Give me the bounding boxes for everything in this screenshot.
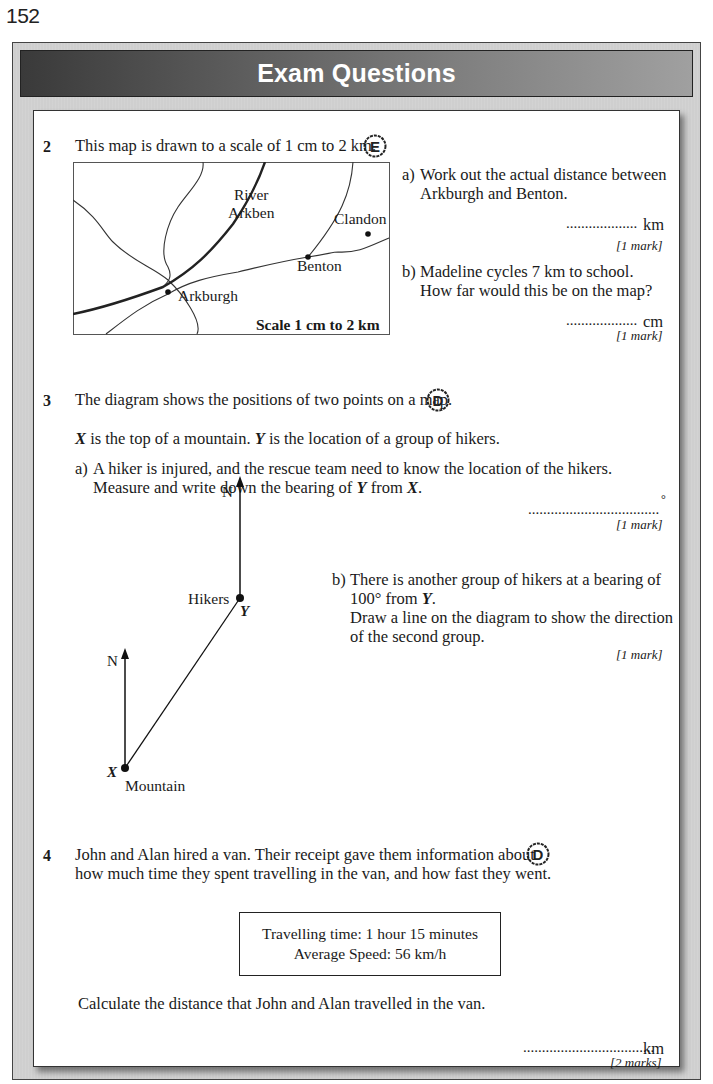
map-scale-label: Scale 1 cm to 2 km [256, 315, 380, 335]
north-arrow-head [236, 476, 244, 487]
answer-line[interactable]: ................................... [528, 501, 659, 518]
question-number: 4 [43, 847, 51, 865]
svg-text:D: D [533, 846, 544, 863]
hikers-label: Hikers [188, 589, 229, 609]
scale-map [73, 162, 390, 335]
marks-label: [1 mark] [616, 517, 663, 533]
marks-label: [1 mark] [616, 647, 663, 663]
answer-unit: km [643, 215, 664, 235]
north-label: N [222, 482, 233, 502]
question-number: 2 [43, 138, 51, 156]
answer-line[interactable]: ................... [566, 312, 637, 329]
page-number: 152 [6, 4, 40, 28]
part-a-text: Work out the actual distance between [420, 165, 667, 185]
part-b-text: of the second group. [350, 627, 485, 647]
part-label: a) [402, 165, 415, 185]
question-text: John and Alan hired a van. Their receipt… [75, 845, 535, 865]
point-x-label: X [107, 762, 117, 782]
question-stem: The diagram shows the positions of two p… [75, 390, 452, 410]
point-y-label: Y [240, 601, 249, 621]
svg-text:D: D [433, 392, 444, 409]
question-text: Calculate the distance that John and Ala… [78, 994, 485, 1014]
title-bar: Exam Questions [20, 50, 693, 97]
question-number: 3 [43, 392, 51, 410]
receipt-box: Travelling time: 1 hour 15 minutes Avera… [239, 912, 501, 976]
grade-d-icon: D [526, 842, 550, 866]
map-label-arkburgh: Arkburgh [178, 286, 238, 306]
arkburgh-point [165, 289, 171, 295]
mountain-label: Mountain [125, 776, 185, 796]
marks-label: [2 marks] [610, 1055, 662, 1071]
question-intro: X is the top of a mountain. Y is the loc… [75, 429, 500, 449]
map-label-benton: Benton [297, 256, 342, 276]
svg-text:E: E [370, 138, 380, 155]
question-text: how much time they spent travelling in t… [75, 864, 551, 884]
receipt-time: Travelling time: 1 hour 15 minutes [262, 924, 478, 944]
page-title: Exam Questions [257, 59, 456, 88]
grade-d-icon: D [426, 388, 450, 412]
grade-e-icon: E [363, 134, 387, 158]
answer-line[interactable]: ................................... [523, 1039, 654, 1056]
part-b-text: Draw a line on the diagram to show the d… [350, 608, 673, 628]
map-label-clandon: Clandon [334, 209, 387, 229]
clandon-point [365, 231, 371, 237]
part-b-text: 100° from Y. [350, 589, 436, 609]
degree-symbol: ° [661, 492, 666, 507]
part-b-text: There is another group of hikers at a be… [350, 570, 661, 590]
marks-label: [1 mark] [616, 238, 663, 254]
bearing-diagram [80, 470, 280, 790]
answer-line[interactable]: ................... [566, 215, 637, 232]
part-b-text: How far would this be on the map? [420, 281, 652, 301]
receipt-speed: Average Speed: 56 km/h [294, 944, 447, 964]
map-label-river: Arkben [228, 203, 275, 223]
north-label: N [107, 651, 118, 671]
map-label-river: River [234, 185, 268, 205]
part-b-text: Madeline cycles 7 km to school. [420, 262, 634, 282]
part-label: b) [402, 262, 416, 282]
point-x [121, 764, 129, 772]
part-a-text: Arkburgh and Benton. [420, 184, 568, 204]
marks-label: [1 mark] [616, 328, 663, 344]
question-stem: This map is drawn to a scale of 1 cm to … [75, 136, 376, 156]
part-label: b) [332, 570, 346, 590]
